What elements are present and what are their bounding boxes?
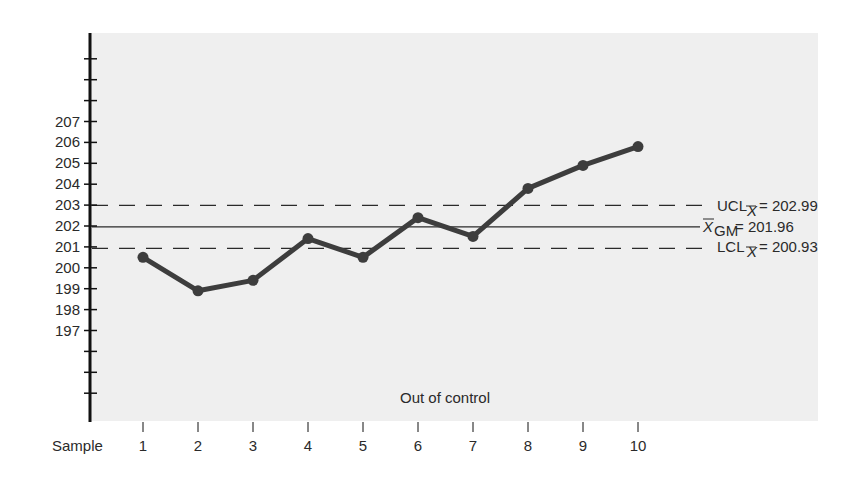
data-point — [578, 160, 589, 171]
y-tick-label: 197 — [55, 322, 80, 339]
x-tick-label: 10 — [630, 437, 647, 454]
svg-text:= 202.99: = 202.99 — [759, 197, 818, 214]
x-axis-label: Sample — [52, 437, 103, 454]
svg-text:= 200.93: = 200.93 — [759, 238, 818, 255]
svg-text:X: X — [702, 218, 714, 235]
data-point — [303, 233, 314, 244]
y-tick-label: 199 — [55, 280, 80, 297]
y-tick-label: 207 — [55, 113, 80, 130]
out-of-control-annotation: Out of control — [400, 389, 490, 406]
y-axis: 197198199200201202203204205206207 — [55, 33, 97, 422]
svg-text:UCL: UCL — [717, 197, 747, 214]
data-point — [413, 212, 424, 223]
x-tick-label: 2 — [194, 437, 202, 454]
y-tick-label: 206 — [55, 133, 80, 150]
y-tick-label: 198 — [55, 301, 80, 318]
x-axis: 12345678910 — [139, 422, 647, 454]
data-point — [358, 252, 369, 263]
control-chart: 197198199200201202203204205206207 123456… — [0, 0, 859, 478]
y-tick-label: 202 — [55, 217, 80, 234]
y-tick-label: 204 — [55, 175, 80, 192]
svg-text:= 201.96: = 201.96 — [735, 218, 794, 235]
x-tick-label: 7 — [469, 437, 477, 454]
data-point — [248, 275, 259, 286]
data-point — [633, 141, 644, 152]
data-point — [523, 183, 534, 194]
y-tick-label: 203 — [55, 196, 80, 213]
y-tick-label: 200 — [55, 259, 80, 276]
svg-text:LCL: LCL — [717, 238, 745, 255]
x-tick-label: 1 — [139, 437, 147, 454]
y-tick-label: 201 — [55, 238, 80, 255]
x-tick-label: 9 — [579, 437, 587, 454]
y-tick-label: 205 — [55, 154, 80, 171]
x-tick-label: 6 — [414, 437, 422, 454]
x-tick-label: 4 — [304, 437, 312, 454]
data-point — [468, 231, 479, 242]
xbar-subscript: X — [746, 202, 758, 219]
x-tick-label: 5 — [359, 437, 367, 454]
x-tick-label: 8 — [524, 437, 532, 454]
x-tick-label: 3 — [249, 437, 257, 454]
data-point — [193, 285, 204, 296]
xbar-subscript: X — [746, 243, 758, 260]
data-point — [138, 252, 149, 263]
